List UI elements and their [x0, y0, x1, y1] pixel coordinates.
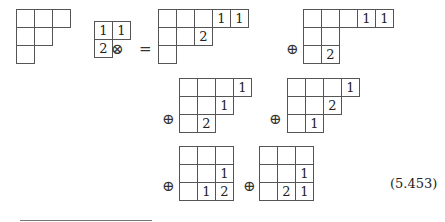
tableau-box — [321, 27, 340, 46]
tableau-box — [16, 9, 35, 28]
tableau-box — [158, 27, 177, 46]
tableau-box — [287, 114, 306, 133]
tableau-box — [179, 182, 198, 201]
footnote-rule — [20, 220, 152, 221]
tableau-box — [158, 9, 177, 28]
tableau-box — [303, 9, 322, 28]
tableau-box — [259, 164, 278, 183]
tableau-box: 2 — [321, 45, 340, 64]
tableau-box — [259, 182, 278, 201]
tableau-box — [277, 164, 296, 183]
tableau-box: 1 — [295, 182, 314, 201]
tableau-box: 2 — [194, 27, 213, 46]
tableau-box — [197, 78, 216, 97]
tableau-box — [179, 78, 198, 97]
tableau-box: 2 — [277, 182, 296, 201]
tableau-box — [176, 27, 195, 46]
tableau-box — [277, 146, 296, 165]
tableau-box — [295, 146, 314, 165]
tableau-box — [305, 78, 324, 97]
tableau-box — [179, 164, 198, 183]
tableau-box — [305, 96, 324, 115]
tableau-box — [321, 9, 340, 28]
tableau-box — [303, 27, 322, 46]
tableau-box — [287, 96, 306, 115]
tableau-box: 1 — [212, 9, 231, 28]
tableau-box — [215, 78, 234, 97]
tableau-box — [179, 146, 198, 165]
tableau-box: 2 — [323, 96, 342, 115]
tableau-box — [259, 146, 278, 165]
tableau-box — [197, 146, 216, 165]
tableau-box — [176, 9, 195, 28]
tableau-box: 1 — [341, 78, 360, 97]
direct-sum-symbol: ⊕ — [269, 110, 282, 128]
tableau-box — [303, 45, 322, 64]
tableau-box: 1 — [215, 164, 234, 183]
tableau-box — [194, 9, 213, 28]
tableau-box: 2 — [215, 182, 234, 201]
tableau-box: 1 — [375, 9, 394, 28]
direct-sum-symbol: ⊕ — [243, 177, 256, 195]
tableau-box — [179, 114, 198, 133]
tableau-box — [339, 9, 358, 28]
direct-sum-symbol: ⊕ — [162, 110, 175, 128]
tableau-box: 1 — [94, 21, 113, 40]
tableau-box: 1 — [357, 9, 376, 28]
tableau-box — [16, 45, 35, 64]
tableau-box — [197, 164, 216, 183]
tableau-box: 1 — [295, 164, 314, 183]
tableau-box — [34, 9, 53, 28]
tableau-box — [16, 27, 35, 46]
equals-sign: = — [139, 40, 152, 58]
tableau-box — [197, 96, 216, 115]
tableau-box — [215, 146, 234, 165]
tableau-box: 1 — [215, 96, 234, 115]
equation-number: (5.453) — [390, 176, 437, 191]
tableau-box — [323, 78, 342, 97]
tableau-box — [34, 27, 53, 46]
tableau-box — [158, 45, 177, 64]
tableau-box — [52, 9, 71, 28]
direct-sum-symbol: ⊕ — [162, 177, 175, 195]
tensor-product-symbol: ⊗ — [111, 40, 124, 58]
tableau-box: 1 — [230, 9, 249, 28]
tableau-box: 2 — [197, 114, 216, 133]
tableau-box — [179, 96, 198, 115]
tableau-box — [287, 78, 306, 97]
tableau-box: 1 — [305, 114, 324, 133]
tableau-box: 1 — [233, 78, 252, 97]
direct-sum-symbol: ⊕ — [286, 40, 299, 58]
tableau-box: 1 — [197, 182, 216, 201]
tableau-box: 1 — [112, 21, 131, 40]
